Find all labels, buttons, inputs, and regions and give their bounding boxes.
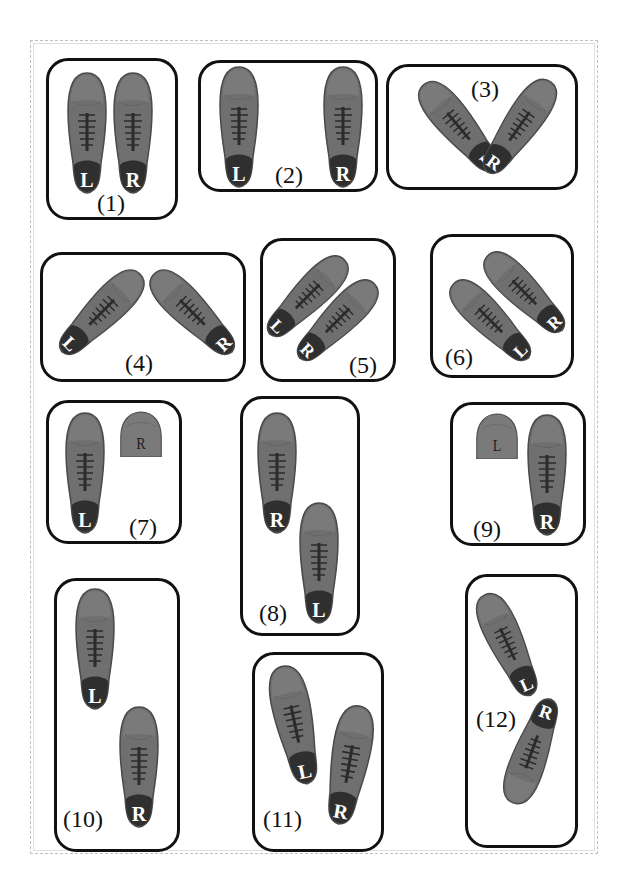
left-shoe-icon: L: [217, 65, 261, 189]
panel-label: (10): [63, 807, 103, 831]
panel-label: (12): [476, 707, 516, 731]
right-shoe-icon: R: [111, 71, 155, 195]
svg-text:L: L: [493, 437, 502, 454]
panel-4: L R (4): [40, 252, 246, 382]
panel-label: (4): [125, 351, 153, 375]
panel-label: (3): [471, 77, 499, 101]
panel-3: L R (3): [386, 64, 578, 190]
partial-left-shoe-toe-icon: L: [475, 413, 519, 459]
panel-label: (11): [263, 807, 302, 831]
right-shoe-icon: R: [321, 65, 365, 189]
right-shoe-icon: R: [138, 258, 247, 367]
panel-8: R L (8): [240, 396, 360, 636]
panel-label: (9): [473, 517, 501, 541]
panel-12: L R (12): [465, 574, 578, 848]
left-shoe-icon: L: [261, 660, 330, 790]
svg-text:R: R: [136, 435, 146, 452]
panel-1: L R (1): [46, 58, 178, 220]
svg-text:L: L: [88, 685, 101, 707]
panel-5: L R (5): [260, 238, 396, 382]
right-shoe-icon: R: [317, 700, 382, 830]
left-shoe-icon: L: [297, 501, 341, 625]
left-shoe-icon: L: [73, 587, 117, 711]
panel-label: (1): [97, 191, 125, 215]
panel-2: L R (2): [198, 60, 378, 192]
panel-label: (7): [129, 515, 157, 539]
panel-7: L R (7): [46, 400, 182, 544]
svg-text:R: R: [336, 163, 351, 185]
panel-10: L R (10): [54, 578, 180, 852]
panel-6: L R (6): [430, 234, 574, 378]
panel-label: (8): [259, 601, 287, 625]
left-shoe-icon: L: [63, 411, 107, 535]
svg-text:L: L: [80, 169, 93, 191]
right-shoe-icon: R: [255, 411, 299, 535]
svg-text:L: L: [78, 509, 91, 531]
svg-text:L: L: [312, 599, 325, 621]
panel-11: L R (11): [252, 652, 384, 852]
panel-label: (5): [349, 353, 377, 377]
panel-label: (2): [275, 163, 303, 187]
right-shoe-icon: R: [525, 413, 569, 537]
panel-label: (6): [445, 345, 473, 369]
right-shoe-icon: R: [117, 705, 161, 829]
svg-text:L: L: [232, 163, 245, 185]
svg-text:R: R: [126, 169, 141, 191]
left-shoe-icon: L: [65, 71, 109, 195]
panel-9: L R (9): [450, 402, 586, 546]
partial-right-shoe-toe-icon: R: [119, 411, 163, 457]
left-shoe-icon: L: [466, 585, 551, 705]
svg-text:R: R: [132, 803, 147, 825]
svg-text:R: R: [540, 511, 555, 533]
svg-text:R: R: [270, 509, 285, 531]
